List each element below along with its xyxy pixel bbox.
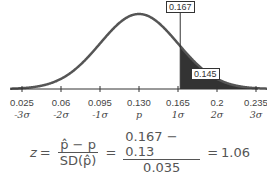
formula-frac2-denominator: 0.035 (141, 160, 182, 175)
sigma-tick-label: 3σ (236, 109, 267, 120)
x-tick-label: 0.025 (2, 97, 42, 108)
tail-area-label: 0.145 (191, 68, 220, 80)
observed-value-label: 0.167 (166, 1, 195, 13)
formula-equals-2: = (105, 145, 116, 160)
formula-fraction-1: p̂ − p SD(p̂) (58, 137, 99, 168)
sigma-tick-label: -2σ (41, 109, 81, 120)
formula-frac1-numerator: p̂ − p (58, 137, 98, 153)
formula-z: z (30, 145, 37, 160)
x-tick-label: 0.130 (119, 97, 159, 108)
x-tick-label: 0.06 (41, 97, 81, 108)
x-tick-label: 0.2 (197, 97, 237, 108)
formula-frac2-numerator: 0.167 − 0.13 (123, 129, 200, 160)
formula-equals-1: = (40, 145, 51, 160)
normal-curve-chart (0, 0, 267, 100)
z-score-formula: z = p̂ − p SD(p̂) = 0.167 − 0.13 0.035 =… (30, 135, 250, 169)
x-tick-label: 0.235 (236, 97, 267, 108)
sigma-tick-label: 2σ (197, 109, 237, 120)
normal-curve (10, 14, 267, 89)
formula-frac1-denominator: SD(p̂) (58, 153, 99, 168)
sigma-tick-label: p (119, 109, 159, 120)
x-tick-label: 0.165 (158, 97, 198, 108)
sigma-tick-label: 1σ (158, 109, 198, 120)
formula-result: 1.06 (221, 145, 250, 160)
sigma-tick-label: -1σ (80, 109, 120, 120)
sigma-tick-label: -3σ (2, 109, 42, 120)
x-tick-label: 0.095 (80, 97, 120, 108)
formula-equals-3: = (207, 145, 218, 160)
formula-fraction-2: 0.167 − 0.13 0.035 (123, 129, 200, 175)
